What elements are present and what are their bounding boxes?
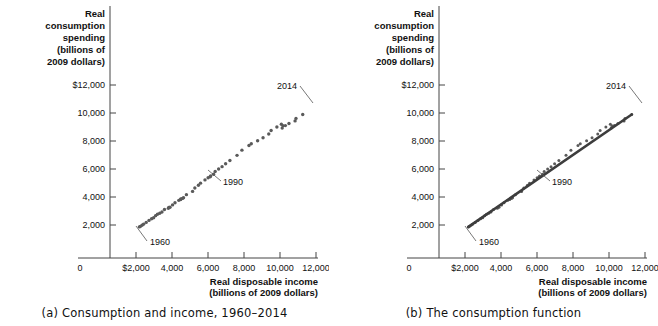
data-point — [163, 208, 166, 211]
data-point — [546, 167, 549, 170]
x-tick-label-4000: 4,000 — [161, 263, 184, 273]
data-point — [261, 136, 264, 139]
x-tick-label-12000: 12,000 — [302, 263, 329, 273]
y-tick-label-10000: 10,000 — [406, 108, 434, 118]
x-tick-label-4000: 4,000 — [490, 263, 513, 273]
data-point — [228, 159, 231, 162]
y-tick-label-2000: 2,000 — [411, 220, 434, 230]
x-tick-label-8000: 8,000 — [562, 263, 585, 273]
x-tick-label-6000: 6,000 — [526, 263, 549, 273]
y-axis-title-line-5: 2009 dollars) — [47, 56, 105, 67]
data-point — [224, 162, 227, 165]
y-axis-title-line-3: spending — [392, 32, 434, 43]
data-point — [144, 221, 147, 224]
x-tick-label-12000: 12,000 — [631, 263, 658, 273]
y-axis-title-line-4: (billions of — [57, 44, 106, 55]
data-point — [553, 162, 556, 165]
data-point — [217, 167, 220, 170]
panel-b: Real consumption spending (billions of 2… — [329, 0, 658, 326]
x-tick-label-10000: 10,000 — [595, 263, 623, 273]
data-point — [256, 139, 259, 142]
x-axis-title-line-1: Real disposable income — [210, 276, 318, 287]
data-point — [281, 126, 284, 129]
data-point — [168, 206, 171, 209]
y-tick-label-4000: 4,000 — [82, 192, 105, 202]
data-point — [275, 125, 278, 128]
consumption-function-line — [468, 114, 631, 226]
data-point — [294, 117, 297, 120]
data-point — [604, 125, 607, 128]
annotation-2014-a: 2014 — [277, 81, 297, 91]
leader-2014-b — [629, 86, 642, 103]
leader-1960-b — [465, 226, 476, 241]
x-origin-label: 0 — [406, 263, 411, 273]
x-tick-label-8000: 8,000 — [233, 263, 256, 273]
leader-2014-a — [300, 86, 313, 103]
data-point — [203, 178, 206, 181]
data-point — [599, 129, 602, 132]
data-point — [185, 193, 188, 196]
annotation-1990-b: 1990 — [552, 177, 572, 187]
y-tick-label-8000: 8,000 — [411, 136, 434, 146]
panel-a-plot: Real consumption spending (billions of 2… — [0, 0, 329, 300]
x-tick-label-10000: 10,000 — [266, 263, 294, 273]
data-point — [596, 132, 599, 135]
y-axis-title-line-4: (billions of — [386, 44, 435, 55]
y-tick-label-4000: 4,000 — [411, 192, 434, 202]
data-point — [267, 132, 270, 135]
data-point — [213, 170, 216, 173]
data-point — [199, 181, 202, 184]
data-point — [591, 136, 594, 139]
panel-a: Real consumption spending (billions of 2… — [0, 0, 329, 326]
annotation-1990-a: 1990 — [223, 177, 243, 187]
data-point — [287, 122, 290, 125]
y-axis-title-line-1: Real — [85, 8, 105, 19]
y-axis-title-line-2: consumption — [374, 20, 434, 31]
y-tick-label-2000: 2,000 — [82, 220, 105, 230]
y-axis-title-line-2: consumption — [45, 20, 105, 31]
panel-b-plot: Real consumption spending (billions of 2… — [329, 0, 658, 300]
data-point — [220, 165, 223, 168]
x-origin-label: 0 — [77, 263, 82, 273]
figure-container: Real consumption spending (billions of 2… — [0, 0, 658, 326]
x-axis-title-line-2: (billions of 2009 dollars) — [538, 287, 647, 298]
panel-b-caption: (b) The consumption function — [329, 306, 658, 320]
data-point — [565, 154, 568, 157]
panel-a-caption: (a) Consumption and income, 1960–2014 — [0, 306, 329, 320]
y-axis-title-line-1: Real — [414, 8, 434, 19]
data-point — [160, 210, 163, 213]
annotation-1960-b: 1960 — [479, 237, 499, 247]
data-point — [240, 148, 243, 151]
x-axis-title-line-1: Real disposable income — [539, 276, 647, 287]
data-point — [585, 139, 588, 142]
data-point — [284, 124, 287, 127]
data-point — [173, 201, 176, 204]
y-tick-label-12000: $12,000 — [72, 80, 105, 90]
annotation-1960-a: 1960 — [150, 237, 170, 247]
data-point — [269, 129, 272, 132]
y-tick-label-12000: $12,000 — [401, 80, 434, 90]
data-point — [235, 154, 238, 157]
leader-1960-a — [136, 226, 147, 241]
y-axis-title-line-5: 2009 dollars) — [376, 56, 434, 67]
data-point — [569, 149, 572, 152]
x-axis-title-line-2: (billions of 2009 dollars) — [209, 287, 318, 298]
data-point — [191, 190, 194, 193]
y-axis-title-line-3: spending — [63, 32, 105, 43]
data-point — [182, 196, 185, 199]
y-tick-label-6000: 6,000 — [411, 164, 434, 174]
data-point — [250, 142, 253, 145]
data-point — [301, 113, 304, 116]
x-tick-label-6000: 6,000 — [197, 263, 220, 273]
data-point — [550, 165, 553, 168]
data-point — [557, 159, 560, 162]
data-point — [208, 175, 211, 178]
x-tick-label-2000: $2,000 — [122, 263, 150, 273]
y-tick-label-8000: 8,000 — [82, 136, 105, 146]
y-tick-label-6000: 6,000 — [82, 164, 105, 174]
data-point — [193, 186, 196, 189]
annotation-2014-b: 2014 — [606, 81, 626, 91]
x-tick-label-2000: $2,000 — [451, 263, 479, 273]
y-tick-label-10000: 10,000 — [77, 108, 105, 118]
scatter-points-a — [138, 113, 305, 229]
